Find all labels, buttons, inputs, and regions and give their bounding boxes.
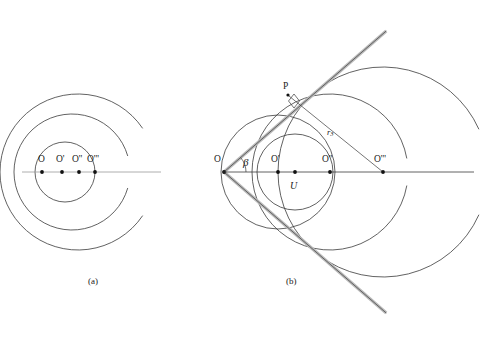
- panel-a-center-point-2: [77, 170, 81, 174]
- geometry-svg-canvas: [0, 0, 485, 347]
- panel-b-center-point-0: [276, 170, 280, 174]
- panel-a-center-point-1: [60, 170, 64, 174]
- panel-b-point-label-0: O': [271, 155, 280, 165]
- panel-b-caption: (b): [286, 277, 297, 286]
- point-label-O: O: [214, 155, 221, 165]
- point-label-P: P: [283, 82, 288, 92]
- panel-b-center-point-2: [381, 170, 385, 174]
- panel-b-point-label-1: O'': [322, 155, 332, 165]
- center-point-U: [293, 170, 297, 174]
- tangent-line-lower: [224, 172, 386, 313]
- panel-a-caption: (a): [88, 277, 98, 286]
- panel-a-center-point-0: [40, 170, 44, 174]
- panel-a-point-label-3: O''': [87, 155, 99, 165]
- radius-segment: [289, 96, 383, 172]
- point-label-U: U: [290, 181, 297, 191]
- panel-b-point-label-2: O''': [374, 155, 386, 165]
- geometry-figure: OO'O''O'''(a)OβPr3O'O''O'''U(b): [0, 0, 485, 347]
- panel-a-point-label-1: O': [56, 155, 65, 165]
- angle-label-beta: β: [243, 157, 248, 168]
- tangent-line-upper: [224, 31, 386, 172]
- radius-label: r3: [327, 128, 334, 138]
- panel-a-point-label-0: O: [38, 155, 45, 165]
- tangent-point-P: [286, 93, 289, 96]
- panel-b-center-point-1: [328, 170, 332, 174]
- panel-a-point-label-2: O'': [72, 155, 82, 165]
- panel-a-center-point-3: [93, 170, 97, 174]
